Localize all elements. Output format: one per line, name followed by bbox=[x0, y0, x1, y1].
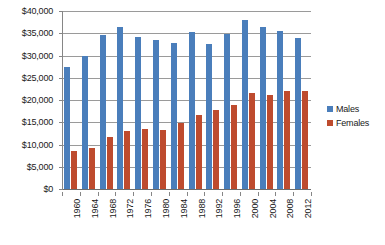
x-axis-tick-label: 2008 bbox=[285, 199, 295, 218]
y-axis-tick-mark bbox=[59, 78, 63, 79]
x-axis-tick-label: 2004 bbox=[268, 199, 278, 218]
x-axis-tick-label: 1960 bbox=[72, 199, 82, 218]
x-axis-tick-mark bbox=[293, 192, 294, 196]
y-axis-tick-mark bbox=[59, 145, 63, 146]
y-axis-tick-mark bbox=[59, 189, 63, 190]
bar-females-2012 bbox=[302, 91, 308, 189]
x-axis-tick-mark bbox=[98, 192, 99, 196]
bar-group bbox=[63, 11, 81, 189]
y-axis-tick-mark bbox=[59, 11, 63, 12]
bar-group bbox=[134, 11, 152, 189]
legend-item-males[interactable]: Males bbox=[327, 104, 383, 114]
y-axis-tick-label: $35,000 bbox=[22, 28, 53, 38]
x-axis-tick-mark bbox=[204, 192, 205, 196]
bar-group bbox=[205, 11, 223, 189]
bar-males-1988 bbox=[189, 32, 195, 189]
plot-area bbox=[62, 11, 311, 189]
x-axis-tick-mark bbox=[258, 192, 259, 196]
bar-group bbox=[241, 11, 259, 189]
x-axis-tick-label: 2000 bbox=[250, 199, 260, 218]
x-axis-tick-label: 2012 bbox=[303, 199, 313, 218]
x-axis: 1960196419681972197619801984198819921996… bbox=[62, 192, 311, 245]
x-axis-tick-mark bbox=[187, 192, 188, 196]
bar-males-1976 bbox=[135, 37, 141, 189]
bar-males-1980 bbox=[153, 40, 159, 189]
bar-females-1980 bbox=[160, 130, 166, 189]
y-axis-tick-label: $5,000 bbox=[27, 162, 53, 172]
y-axis-tick-label: $15,000 bbox=[22, 117, 53, 127]
bar-males-1972 bbox=[117, 27, 123, 189]
bar-group bbox=[116, 11, 134, 189]
x-axis-tick-mark bbox=[80, 192, 81, 196]
legend-swatch-icon bbox=[327, 106, 333, 112]
bar-males-1996 bbox=[224, 34, 230, 189]
bar-group bbox=[152, 11, 170, 189]
bar-females-1964 bbox=[89, 148, 95, 189]
bar-group bbox=[294, 11, 312, 189]
x-axis-tick-mark bbox=[311, 192, 312, 196]
x-axis-tick-mark bbox=[222, 192, 223, 196]
x-axis-tick-label: 1972 bbox=[125, 199, 135, 218]
x-axis-tick-label: 1976 bbox=[143, 199, 153, 218]
bar-group bbox=[188, 11, 206, 189]
y-axis-tick-label: $10,000 bbox=[22, 140, 53, 150]
x-axis-tick-label: 1996 bbox=[232, 199, 242, 218]
bar-females-1992 bbox=[213, 110, 219, 189]
bar-males-2012 bbox=[295, 38, 301, 189]
x-axis-tick-label: 1968 bbox=[108, 199, 118, 218]
y-axis-tick-mark bbox=[59, 122, 63, 123]
bar-females-1988 bbox=[196, 115, 202, 189]
bar-females-1976 bbox=[142, 129, 148, 189]
bar-females-1968 bbox=[107, 137, 113, 189]
bar-females-1972 bbox=[124, 131, 130, 189]
x-axis-tick-mark bbox=[169, 192, 170, 196]
y-axis-tick-mark bbox=[59, 33, 63, 34]
bar-females-2000 bbox=[249, 93, 255, 189]
y-axis-tick-mark bbox=[59, 100, 63, 101]
x-axis-tick-mark bbox=[275, 192, 276, 196]
bar-group bbox=[99, 11, 117, 189]
bar-males-2008 bbox=[277, 31, 283, 189]
y-axis-tick-label: $40,000 bbox=[22, 6, 53, 16]
bar-group bbox=[259, 11, 277, 189]
y-axis-tick-label: $30,000 bbox=[22, 51, 53, 61]
x-axis-tick-mark bbox=[115, 192, 116, 196]
x-axis-tick-mark bbox=[133, 192, 134, 196]
bar-females-2008 bbox=[284, 91, 290, 189]
x-axis-tick-label: 1992 bbox=[214, 199, 224, 218]
x-axis-tick-label: 1988 bbox=[197, 199, 207, 218]
bar-males-1992 bbox=[206, 44, 212, 190]
bar-females-2004 bbox=[267, 95, 273, 189]
legend-label: Females bbox=[336, 118, 369, 128]
gridline bbox=[63, 189, 311, 190]
bar-males-1960 bbox=[64, 67, 70, 189]
y-axis: $40,000$35,000$30,000$25,000$20,000$15,0… bbox=[0, 0, 62, 245]
y-axis-tick-label: $25,000 bbox=[22, 73, 53, 83]
y-axis-tick-mark bbox=[59, 56, 63, 57]
x-axis-tick-mark bbox=[240, 192, 241, 196]
y-axis-tick-label: $20,000 bbox=[22, 95, 53, 105]
bar-group bbox=[170, 11, 188, 189]
y-axis-tick-mark bbox=[59, 167, 63, 168]
legend-item-females[interactable]: Females bbox=[327, 118, 383, 128]
bar-males-2004 bbox=[260, 27, 266, 189]
x-axis-tick-mark bbox=[62, 192, 63, 196]
bar-group bbox=[276, 11, 294, 189]
bar-chart: $40,000$35,000$30,000$25,000$20,000$15,0… bbox=[0, 0, 385, 245]
chart-legend: MalesFemales bbox=[327, 104, 383, 132]
bar-group bbox=[81, 11, 99, 189]
bar-females-1984 bbox=[178, 123, 184, 189]
x-axis-tick-mark bbox=[151, 192, 152, 196]
y-axis-tick-label: $0 bbox=[43, 184, 53, 194]
bar-males-1964 bbox=[82, 56, 88, 190]
x-axis-tick-label: 1980 bbox=[161, 199, 171, 218]
legend-label: Males bbox=[336, 104, 359, 114]
x-axis-tick-label: 1984 bbox=[179, 199, 189, 218]
bar-group bbox=[223, 11, 241, 189]
bar-males-1984 bbox=[171, 43, 177, 189]
bar-females-1960 bbox=[71, 151, 77, 189]
bar-males-1968 bbox=[100, 35, 106, 189]
legend-swatch-icon bbox=[327, 120, 333, 126]
x-axis-tick-label: 1964 bbox=[90, 199, 100, 218]
bars-layer bbox=[63, 11, 311, 189]
